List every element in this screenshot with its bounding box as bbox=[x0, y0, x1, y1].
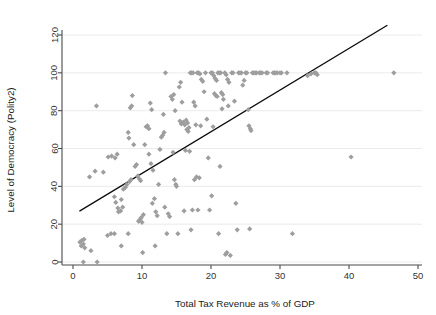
y-tick-label: 60 bbox=[49, 143, 60, 154]
x-tick-label: 50 bbox=[413, 270, 424, 281]
scatter-plot-figure: 01020304050 020406080100120 Total Tax Re… bbox=[0, 0, 436, 315]
y-axis-title: Level of Democracy (Polity2) bbox=[5, 87, 16, 212]
x-tick-label: 30 bbox=[275, 270, 286, 281]
y-tick-label: 80 bbox=[49, 105, 60, 116]
y-tick-label: 0 bbox=[49, 259, 60, 264]
y-tick-label: 40 bbox=[49, 181, 60, 192]
plot-canvas: 01020304050 020406080100120 Total Tax Re… bbox=[0, 0, 436, 315]
y-tick-label: 100 bbox=[49, 65, 60, 81]
figure-background bbox=[0, 0, 436, 315]
y-tick-label: 120 bbox=[49, 27, 60, 43]
x-tick-label: 0 bbox=[70, 270, 75, 281]
x-tick-label: 40 bbox=[344, 270, 355, 281]
x-tick-label: 20 bbox=[206, 270, 217, 281]
x-axis-title: Total Tax Revenue as % of GDP bbox=[175, 298, 315, 309]
y-tick-label: 20 bbox=[49, 219, 60, 230]
x-tick-label: 10 bbox=[137, 270, 148, 281]
